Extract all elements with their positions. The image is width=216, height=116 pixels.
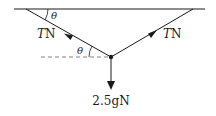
right-tension-label: TN [163,27,182,41]
force-diagram: θ θ TN TN 2.5gN [0,0,216,116]
upper-angle-arc [45,9,48,20]
lower-theta-label: θ [77,45,83,56]
weight-arrow-icon [107,81,115,90]
junction-point [109,55,113,59]
weight-label: 2.5gN [92,94,129,108]
left-tension-label: TN [37,27,56,41]
right-tension-arrow-icon [148,30,157,38]
upper-theta-label: θ [51,10,57,21]
lower-angle-arc [89,46,92,57]
